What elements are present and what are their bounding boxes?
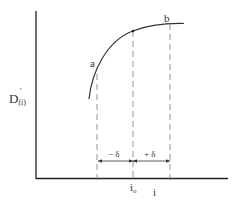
point-a-label: a [90, 57, 95, 69]
arrow-center-left [129, 159, 133, 162]
arrow-center-right [133, 159, 137, 162]
diagram-canvas: D(i) ' a b − δ + δ io i [0, 0, 237, 205]
x-center-label: io [130, 181, 137, 195]
y-axis-label-prime: ' [20, 87, 22, 96]
arrow-left-end [98, 159, 102, 162]
center-point [132, 30, 135, 33]
point-b-label: b [164, 12, 170, 24]
plus-delta-label: + δ [144, 149, 156, 159]
y-axis-label: D(i) [9, 91, 26, 107]
x-axis-label: i [153, 186, 156, 198]
minus-delta-label: − δ [108, 149, 120, 159]
arrow-right-end [166, 159, 170, 162]
